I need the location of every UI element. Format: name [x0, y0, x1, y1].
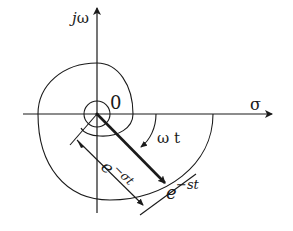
- svg-text:−st: −st: [176, 177, 200, 192]
- origin-label: 0: [110, 92, 121, 113]
- real-axis-label: σ: [250, 95, 261, 114]
- imaginary-axis-label: jω: [69, 9, 89, 27]
- extension-line: [70, 114, 97, 145]
- vector-label: e −st: [166, 177, 200, 203]
- magnitude-label: e −σt: [97, 155, 137, 195]
- angle-arc: [141, 114, 156, 147]
- spiral-diagram: jω σ 0 ω t e −σt e −st: [0, 0, 293, 231]
- dimension-arrow-start: [77, 140, 84, 148]
- angle-label: ω t: [157, 129, 180, 147]
